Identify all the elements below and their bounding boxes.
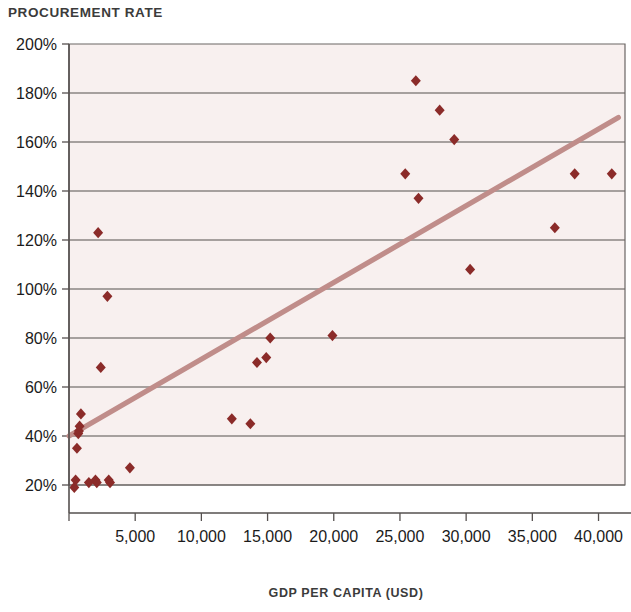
y-tick-label: 40%	[25, 428, 57, 445]
y-tick-label: 140%	[16, 183, 57, 200]
y-tick-label: 120%	[16, 232, 57, 249]
x-axis-title: GDP PER CAPITA (USD)	[269, 586, 424, 600]
y-tick-label: 200%	[16, 36, 57, 53]
chart-title: PROCUREMENT RATE	[8, 5, 163, 20]
x-tick-label: 10,000	[177, 528, 226, 545]
x-tick-label: 5,000	[115, 528, 155, 545]
scatter-chart: PROCUREMENT RATE 200%180%160%140%120%100…	[0, 0, 631, 612]
y-tick-label: 180%	[16, 85, 57, 102]
y-tick-label: 160%	[16, 134, 57, 151]
y-tick-label: 80%	[25, 330, 57, 347]
x-tick-label: 20,000	[309, 528, 358, 545]
y-tick-label: 20%	[25, 477, 57, 494]
x-tick-label: 35,000	[508, 528, 557, 545]
x-tick-label: 25,000	[375, 528, 424, 545]
y-tick-label: 60%	[25, 379, 57, 396]
x-tick-label: 30,000	[442, 528, 491, 545]
x-tick-label: 15,000	[243, 528, 292, 545]
x-tick-label: 40,000	[574, 528, 623, 545]
y-tick-label: 100%	[16, 281, 57, 298]
plot-area-background	[69, 44, 625, 485]
